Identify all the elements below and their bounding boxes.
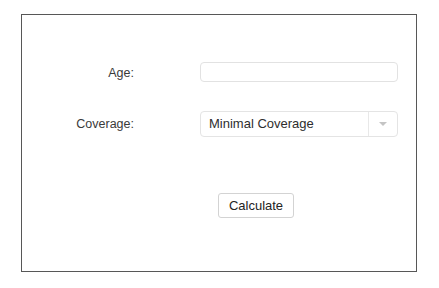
coverage-select[interactable]: Minimal Coverage [200,111,398,137]
coverage-label: Coverage: [22,112,134,136]
form-row-age: Age: [22,61,416,85]
chevron-down-icon [379,122,387,126]
age-label: Age: [22,61,134,85]
application-window: Age: Coverage: Minimal Coverage Calculat… [21,14,417,272]
coverage-select-value: Minimal Coverage [209,112,365,136]
insurance-quote-form: Age: Coverage: Minimal Coverage Calculat… [22,15,416,271]
calculate-button[interactable]: Calculate [218,193,294,218]
coverage-dropdown-button[interactable] [368,112,397,136]
age-input[interactable] [200,62,398,82]
form-row-coverage: Coverage: Minimal Coverage [22,112,416,136]
